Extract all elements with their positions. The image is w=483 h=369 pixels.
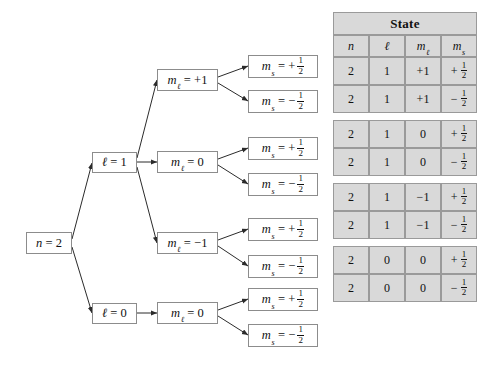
node-l-1-eq: =: [107, 155, 120, 170]
node-l-1[interactable]: ℓ = 1: [92, 152, 137, 173]
node-ms-1-var: m: [262, 59, 271, 73]
cell-l: 0: [369, 274, 405, 302]
cell-ml: +1: [405, 57, 441, 85]
node-ms-6-fraction: 1 2: [297, 256, 304, 275]
cell-n: 2: [333, 120, 369, 148]
cell-ms-fraction: 1 2: [461, 187, 468, 206]
node-ms-6[interactable]: ms = − 1 2: [248, 255, 318, 278]
node-ml-minus1-val: −1: [194, 236, 208, 251]
cell-ml: +1: [405, 85, 441, 113]
node-l-1-val: 1: [121, 155, 127, 170]
node-ms-1-fraction: 1 2: [297, 56, 304, 75]
cell-n: 2: [333, 274, 369, 302]
table-row: 2 1 −1 + 1 2: [333, 183, 477, 211]
node-ms-8[interactable]: ms = − 1 2: [248, 324, 318, 347]
cell-ml: −1: [405, 183, 441, 211]
cell-ms: + 1 2: [441, 183, 477, 211]
cell-ml: 0: [405, 246, 441, 274]
cell-ms: − 1 2: [441, 211, 477, 239]
node-ms-4-var: m: [262, 177, 271, 191]
cell-l: 1: [369, 85, 405, 113]
cell-ms-fraction: 1 2: [461, 250, 468, 269]
cell-n: 2: [333, 57, 369, 85]
cell-n: 2: [333, 85, 369, 113]
node-ml-zero-lower-val: 0: [198, 306, 204, 321]
node-ms-8-var: m: [262, 328, 271, 342]
cell-ms-fraction: 1 2: [461, 89, 468, 108]
cell-ms-fraction: 1 2: [461, 152, 468, 171]
cell-n: 2: [333, 211, 369, 239]
cell-ml: 0: [405, 120, 441, 148]
column-header-n: n: [333, 35, 369, 57]
node-ml-minus1-eq: =: [181, 236, 194, 251]
cell-ms-fraction: 1 2: [461, 124, 468, 143]
node-ms-1[interactable]: ms = + 1 2: [248, 55, 318, 78]
column-header-l: ℓ: [369, 35, 405, 57]
node-l-0[interactable]: ℓ = 0: [92, 303, 137, 324]
node-ms-4[interactable]: ms = − 1 2: [248, 173, 318, 196]
node-ml-plus1[interactable]: mℓ = +1: [157, 69, 218, 91]
node-ms-7[interactable]: ms = + 1 2: [248, 288, 318, 311]
table-header-row: n ℓ mℓ ms: [333, 35, 477, 57]
node-ml-zero-lower[interactable]: mℓ = 0: [157, 302, 218, 324]
node-l-0-var: ℓ: [102, 306, 107, 321]
node-ms-7-fraction: 1 2: [297, 289, 304, 308]
state-table: State n ℓ mℓ ms: [333, 12, 477, 302]
node-ms-2-fraction: 1 2: [297, 91, 304, 110]
node-l-1-var: ℓ: [102, 155, 107, 170]
node-ms-5-var: m: [262, 222, 271, 236]
node-ms-4-fraction: 1 2: [297, 174, 304, 193]
cell-ms: + 1 2: [441, 57, 477, 85]
node-l-0-val: 0: [121, 306, 127, 321]
table-row: 2 1 +1 + 1 2: [333, 57, 477, 85]
diagram-canvas: n = 2 ℓ = 1 ℓ = 0 mℓ = +1 mℓ = 0 mℓ = −1…: [0, 0, 483, 369]
table-row: 2 1 −1 − 1 2: [333, 211, 477, 239]
node-ml-minus1-var: mℓ: [167, 236, 180, 251]
cell-ml: −1: [405, 211, 441, 239]
node-ms-2[interactable]: ms = − 1 2: [248, 90, 318, 113]
table-row: 2 0 0 + 1 2: [333, 246, 477, 274]
node-ms-6-var: m: [262, 259, 271, 273]
cell-n: 2: [333, 246, 369, 274]
cell-ms: − 1 2: [441, 274, 477, 302]
node-ms-5-fraction: 1 2: [297, 219, 304, 238]
node-ml-minus1[interactable]: mℓ = −1: [157, 232, 218, 254]
cell-n: 2: [333, 183, 369, 211]
table-row: 2 1 0 + 1 2: [333, 120, 477, 148]
node-ms-3[interactable]: ms = + 1 2: [248, 137, 318, 160]
node-ml-plus1-eq: =: [181, 73, 194, 88]
node-ml-zero-upper-val: 0: [198, 155, 204, 170]
table-row-spacer: [333, 239, 477, 246]
cell-l: 1: [369, 148, 405, 176]
cell-l: 0: [369, 246, 405, 274]
node-n-2[interactable]: n = 2: [26, 232, 72, 254]
node-ml-plus1-var: mℓ: [167, 73, 180, 88]
cell-ms: − 1 2: [441, 85, 477, 113]
table-row-spacer: [333, 113, 477, 120]
node-ms-3-fraction: 1 2: [297, 138, 304, 157]
node-ms-7-var: m: [262, 292, 271, 306]
node-ml-zero-upper[interactable]: mℓ = 0: [157, 151, 218, 173]
cell-ms: + 1 2: [441, 246, 477, 274]
cell-ms: + 1 2: [441, 120, 477, 148]
table-row: 2 0 0 − 1 2: [333, 274, 477, 302]
node-ms-5[interactable]: ms = + 1 2: [248, 218, 318, 241]
node-ml-zero-lower-eq: =: [184, 306, 197, 321]
state-table-container: State n ℓ mℓ ms: [333, 12, 477, 302]
node-ml-zero-upper-eq: =: [184, 155, 197, 170]
cell-ml: 0: [405, 274, 441, 302]
table-row-spacer: [333, 176, 477, 183]
table-row: 2 1 +1 − 1 2: [333, 85, 477, 113]
node-n-2-eq: =: [42, 236, 55, 251]
cell-l: 1: [369, 57, 405, 85]
node-ml-zero-upper-var: mℓ: [171, 155, 184, 170]
cell-l: 1: [369, 120, 405, 148]
cell-ms-fraction: 1 2: [461, 278, 468, 297]
table-row: 2 1 0 − 1 2: [333, 148, 477, 176]
cell-l: 1: [369, 183, 405, 211]
table-title-row: State: [333, 12, 477, 35]
cell-n: 2: [333, 148, 369, 176]
node-n-2-var: n: [36, 236, 42, 251]
state-table-body: 2 1 +1 + 1 2 2 1: [333, 57, 477, 302]
cell-l: 1: [369, 211, 405, 239]
